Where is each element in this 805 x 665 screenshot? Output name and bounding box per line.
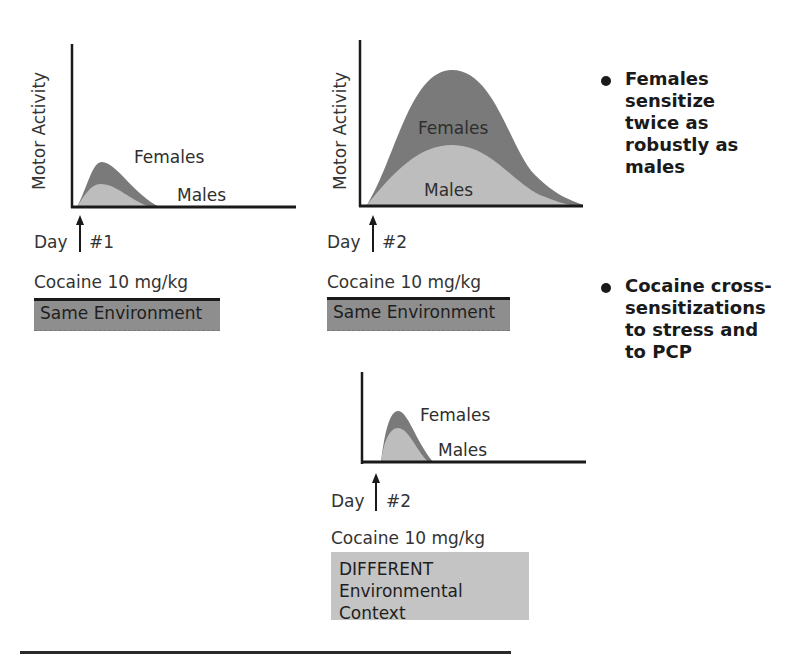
panel3-environment-line1: DIFFERENT [339,558,521,580]
panel3-environment-box: DIFFERENT Environmental Context [331,552,529,620]
bullet-dot-icon [601,283,611,293]
panel3-dose: Cocaine 10 mg/kg [331,528,485,548]
bullet-text-2: Cocaine cross-sensitizations to stress a… [625,275,775,363]
panel3-day-label: Day [331,491,365,511]
bullet-item-2: Cocaine cross-sensitizations to stress a… [601,275,791,363]
panel3-environment-line2: Environmental Context [339,580,521,624]
panel3-arrow-head-icon [372,473,380,483]
bottom-divider-line [20,651,509,654]
panel3-day-number: #2 [386,491,411,511]
bullet-dot-icon [601,76,611,86]
bullet-item-1: Females sensitize twice as robustly as m… [601,68,791,178]
bullet-text-1: Females sensitize twice as robustly as m… [625,68,755,178]
panel3-females-label: Females [420,405,490,425]
panel3-males-label: Males [438,440,487,460]
